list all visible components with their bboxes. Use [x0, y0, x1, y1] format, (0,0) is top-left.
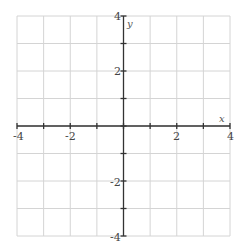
y-tick-label-neg4: -4	[110, 231, 121, 244]
y-axis-label: y	[126, 18, 133, 29]
x-tick-label-neg2: -2	[65, 130, 76, 143]
y-tick-label-2: 2	[114, 65, 121, 78]
x-tick-label-4: 4	[227, 130, 234, 143]
x-tick-label-neg4: -4	[13, 130, 24, 143]
x-tick-label-2: 2	[173, 130, 180, 143]
x-axis-label: x	[219, 113, 225, 124]
y-tick-label-neg2: -2	[110, 176, 121, 189]
coordinate-plane: x y -4 -2 2 4 4 2 -2 -4	[0, 0, 243, 251]
y-tick-label-4: 4	[114, 10, 121, 23]
